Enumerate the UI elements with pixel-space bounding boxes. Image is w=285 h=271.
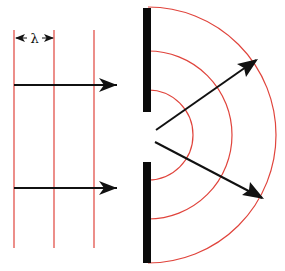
diffracted-arrow-up (156, 60, 256, 130)
arc-wavefront-2 (148, 51, 232, 219)
diffraction-diagram: λ (0, 0, 285, 271)
wavelength-indicator: λ (16, 31, 53, 46)
barrier (143, 8, 151, 263)
arrowhead-icon (237, 59, 258, 77)
barrier-top (143, 8, 151, 112)
barrier-bottom (143, 162, 151, 263)
arrowhead-icon (242, 182, 264, 199)
propagation-arrows (14, 59, 264, 199)
diffracted-arrow-down (155, 142, 262, 198)
arc-wavefront-3 (148, 7, 276, 263)
incident-wavefronts (14, 30, 94, 248)
arc-wavefront-1 (148, 90, 193, 180)
diffracted-wavefronts (148, 7, 276, 263)
wavelength-label: λ (30, 31, 38, 46)
